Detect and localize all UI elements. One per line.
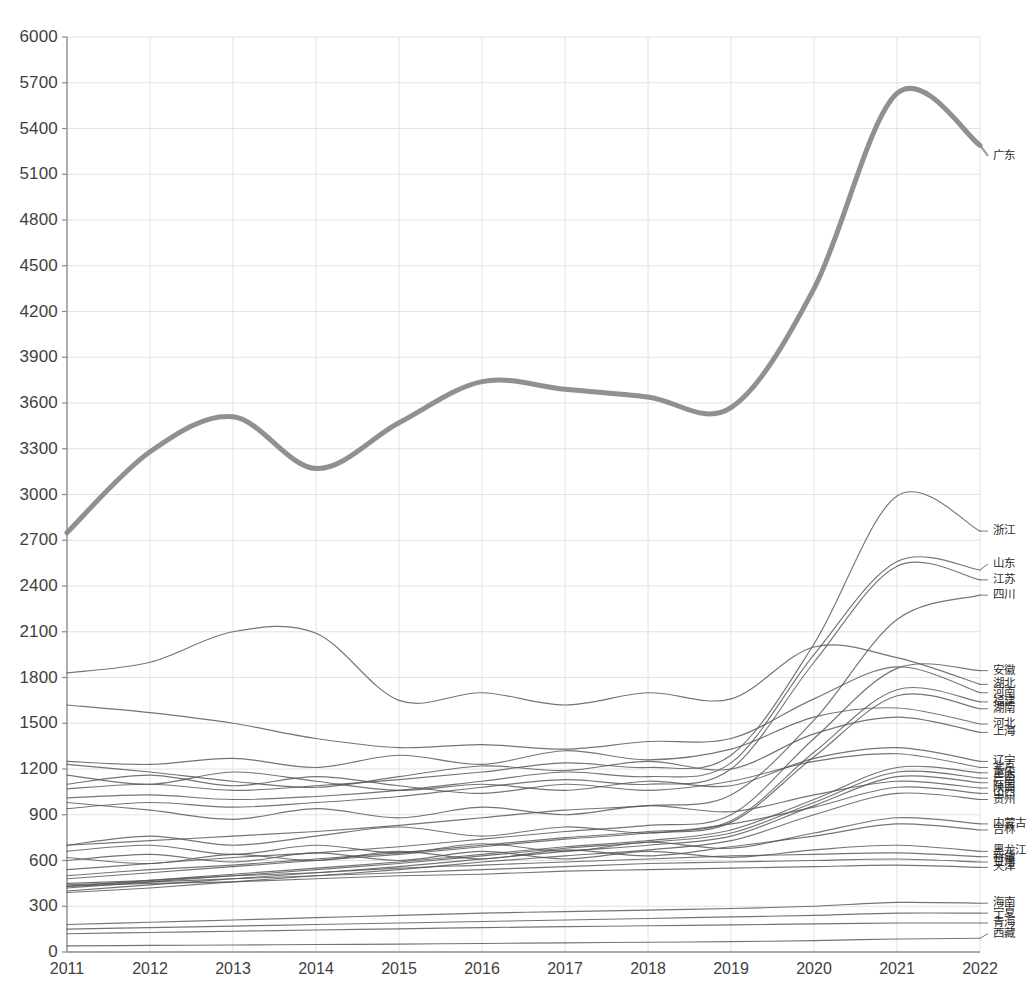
x-tick-label: 2011	[50, 960, 84, 978]
series-label: 广东	[993, 150, 1015, 162]
series-line	[67, 776, 980, 891]
series-leader-line	[980, 564, 988, 570]
series-label: 贵州	[993, 794, 1015, 806]
series-leader-line	[980, 145, 988, 156]
x-tick-label: 2015	[381, 960, 417, 978]
series-line	[67, 938, 980, 946]
series-leader-line	[980, 934, 988, 939]
x-tick-label: 2022	[962, 960, 998, 978]
series-line	[67, 626, 980, 705]
x-tick-label: 2013	[215, 960, 251, 978]
series-label: 西藏	[993, 928, 1015, 940]
x-tick-label: 2012	[132, 960, 168, 978]
x-tick-label: 2021	[879, 960, 915, 978]
series-line	[67, 667, 980, 749]
series-line	[67, 818, 980, 855]
series-label: 天津	[993, 862, 1015, 874]
series-label: 上海	[993, 727, 1015, 739]
series-label: 安徽	[993, 665, 1015, 677]
series-line	[67, 557, 980, 800]
series-line	[67, 923, 980, 934]
series-label: 浙江	[993, 525, 1015, 537]
series-label: 四川	[993, 589, 1015, 601]
plot-area	[0, 0, 1032, 996]
series-label: 吉林	[993, 824, 1015, 836]
x-tick-label: 2018	[630, 960, 666, 978]
x-tick-label: 2014	[298, 960, 334, 978]
series-line	[67, 787, 980, 845]
series-line	[67, 88, 980, 532]
x-tick-label: 2020	[796, 960, 832, 978]
series-line	[67, 824, 980, 864]
series-label: 湖南	[993, 703, 1015, 715]
line-chart: 0300600900120015001800210024002700300033…	[0, 0, 1032, 996]
series-line	[67, 708, 980, 768]
x-tick-label: 2019	[713, 960, 749, 978]
series-label: 山东	[993, 558, 1015, 570]
x-tick-label: 2017	[547, 960, 583, 978]
series-label: 江苏	[993, 574, 1015, 586]
x-tick-label: 2016	[464, 960, 500, 978]
series-line	[67, 595, 980, 845]
